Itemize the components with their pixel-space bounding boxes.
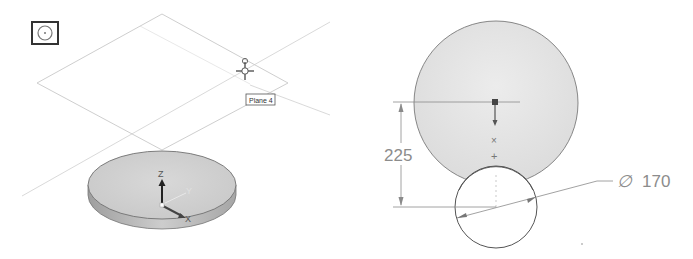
right-sketch-view: × + 225 ∅ 170	[383, 21, 670, 248]
left-isometric-view: Plane 4 Z Y X	[22, 14, 330, 229]
cad-canvas: Plane 4 Z Y X ×	[0, 0, 693, 259]
center-point[interactable]	[492, 99, 498, 105]
vertical-dimension-value: 225	[384, 146, 412, 165]
plane-tag-label: Plane 4	[249, 97, 273, 104]
sketch-on-plane-icon[interactable]	[32, 22, 58, 44]
stray-point	[581, 243, 583, 245]
plane-inner-line	[140, 26, 250, 84]
diameter-symbol: ∅	[617, 172, 633, 191]
plane-tag[interactable]: Plane 4	[246, 94, 275, 105]
y-axis-label: Y	[186, 186, 192, 196]
diameter-value: 170	[642, 172, 670, 191]
plane-4-outline[interactable]	[37, 14, 288, 150]
plus-marker: +	[491, 150, 497, 162]
move-crosshair-icon	[236, 58, 254, 80]
z-axis-label: Z	[158, 169, 164, 179]
triad-origin	[160, 203, 164, 207]
x-axis-label: X	[185, 214, 191, 224]
x-marker: ×	[491, 135, 497, 146]
